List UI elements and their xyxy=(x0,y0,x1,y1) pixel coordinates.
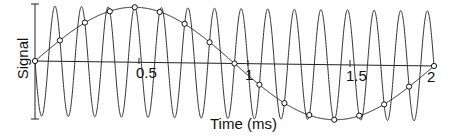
sample-point-marker xyxy=(382,102,387,107)
sample-point-marker xyxy=(207,40,212,45)
x-axis-label: Time (ms) xyxy=(210,115,277,132)
sample-point-marker xyxy=(307,112,312,117)
sample-point-marker xyxy=(157,9,162,14)
sample-point-marker xyxy=(357,113,362,118)
sample-point-marker xyxy=(182,21,187,26)
sample-point-marker xyxy=(257,82,262,87)
sample-point-marker xyxy=(232,61,237,66)
sample-point-marker xyxy=(32,58,37,63)
sample-markers xyxy=(32,5,436,123)
sample-point-marker xyxy=(332,117,337,122)
x-tick-label-1-5: 1.5 xyxy=(346,67,367,84)
sample-point-marker xyxy=(82,20,87,25)
sample-point-marker xyxy=(107,9,112,14)
x-tick-label-0-5: 0.5 xyxy=(136,64,157,81)
sample-point-marker xyxy=(57,38,62,43)
sample-point-marker xyxy=(132,5,137,10)
sample-point-marker xyxy=(282,101,287,106)
x-tick-label-1: 1 xyxy=(245,66,253,83)
x-tick-label-2: 2 xyxy=(427,68,435,85)
sample-point-marker xyxy=(406,84,411,89)
y-axis-label: Signal xyxy=(14,29,31,89)
